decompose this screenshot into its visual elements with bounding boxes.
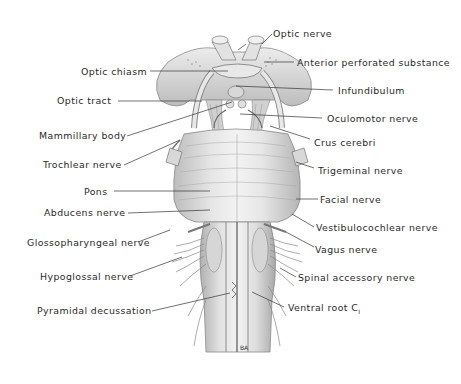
label-anterior-perforated-substance: Anterior perforated substance bbox=[297, 57, 450, 68]
label-ventral-root-c1: Ventral root CI bbox=[288, 302, 360, 317]
label-optic-tract: Optic tract bbox=[57, 95, 111, 106]
label-abducens-nerve: Abducens nerve bbox=[44, 207, 125, 218]
label-crus-cerebri: Crus cerebri bbox=[314, 137, 376, 148]
pons-shape bbox=[166, 129, 308, 222]
label-oculomotor-nerve: Oculomotor nerve bbox=[327, 113, 418, 124]
label-optic-chiasm: Optic chiasm bbox=[81, 66, 147, 77]
label-hypoglossal-nerve: Hypoglossal nerve bbox=[40, 271, 133, 282]
label-vagus-nerve: Vagus nerve bbox=[315, 244, 377, 255]
label-optic-nerve: Optic nerve bbox=[273, 28, 332, 39]
medulla-shape: BA bbox=[172, 222, 302, 352]
label-spinal-accessory-nerve: Spinal accessory nerve bbox=[298, 272, 415, 283]
label-vestibulocochlear-nerve: Vestibulocochlear nerve bbox=[316, 222, 438, 233]
artist-signature: BA bbox=[240, 344, 249, 351]
label-pons: Pons bbox=[84, 186, 107, 197]
label-trochlear-nerve: Trochlear nerve bbox=[43, 159, 122, 170]
label-mammillary-body: Mammillary body bbox=[39, 130, 126, 141]
label-glossopharyngeal-nerve: Glossopharyngeal nerve bbox=[27, 237, 150, 248]
label-ventral-root-text: Ventral root C bbox=[288, 302, 358, 313]
label-ventral-root-subscript: I bbox=[358, 308, 360, 315]
label-facial-nerve: Facial nerve bbox=[320, 194, 381, 205]
label-trigeminal-nerve: Trigeminal nerve bbox=[318, 165, 403, 176]
label-pyramidal-decussation: Pyramidal decussation bbox=[37, 305, 152, 316]
brainstem-diagram: BA Optic chiasm Optic bbox=[0, 0, 461, 384]
label-infundibulum: Infundibulum bbox=[338, 85, 405, 96]
